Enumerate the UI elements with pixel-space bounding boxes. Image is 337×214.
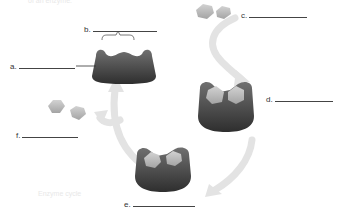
blank-e[interactable] [133, 206, 195, 207]
diagram-graphics [0, 0, 337, 214]
label-e: e. [124, 200, 195, 209]
label-b-letter: b. [84, 25, 91, 34]
label-a: a. [10, 62, 75, 71]
blank-c[interactable] [249, 17, 307, 18]
arrow-d-to-e [215, 140, 252, 190]
label-a-letter: a. [10, 62, 17, 71]
label-b: b. [84, 25, 157, 34]
label-e-letter: e. [124, 200, 131, 209]
product-molecules [48, 100, 86, 120]
label-f-letter: f. [16, 131, 20, 140]
label-c-letter: c. [241, 11, 247, 20]
arrow-substrate-entry [213, 18, 242, 80]
footer-faint-text: Enzyme cycle [38, 190, 81, 197]
enzyme-substrate-complex [198, 82, 254, 132]
blank-d[interactable] [275, 101, 333, 102]
enzyme-product-complex [135, 148, 191, 192]
blank-b[interactable] [93, 31, 157, 32]
label-f: f. [16, 131, 78, 140]
enzyme-cycle-diagram: of an enzyme. [0, 0, 337, 214]
enzyme-free [92, 50, 156, 84]
substrate-molecule [196, 4, 231, 19]
blank-a[interactable] [19, 68, 75, 69]
label-d-letter: d. [266, 95, 273, 104]
blank-f[interactable] [22, 137, 78, 138]
label-c: c. [241, 11, 307, 20]
label-d: d. [266, 95, 333, 104]
